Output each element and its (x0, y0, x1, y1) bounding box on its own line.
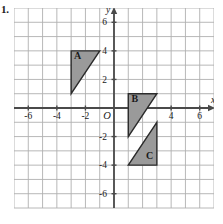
problem-number: 1. (1, 3, 9, 15)
x-axis-arrowhead (208, 105, 214, 111)
y-axis-label: y (105, 8, 111, 15)
x-tick-label: -2 (81, 111, 89, 121)
x-tick-label: -4 (53, 111, 61, 121)
triangle-label-b: B (131, 93, 138, 104)
y-tick-label: -6 (99, 189, 107, 199)
axes (14, 8, 214, 208)
worksheet-page: 1. -6-4-246642-2-4-6OxyABC (0, 0, 223, 224)
graph-svg: -6-4-246642-2-4-6OxyABC (14, 8, 214, 218)
y-tick-label: -2 (99, 132, 107, 142)
origin-label: O (103, 110, 111, 121)
coordinate-graph: -6-4-246642-2-4-6OxyABC (14, 8, 214, 218)
y-tick-label: 2 (102, 75, 107, 85)
y-tick-label: 4 (102, 46, 107, 56)
triangle-label-a: A (74, 50, 82, 61)
x-tick-label: -6 (24, 111, 32, 121)
y-axis-arrowhead (111, 8, 117, 14)
x-tick-label: 6 (197, 111, 202, 121)
triangle-label-c: C (146, 150, 153, 161)
y-tick-label: -4 (99, 160, 107, 170)
x-axis-label: x (210, 95, 214, 105)
x-tick-label: 4 (169, 111, 174, 121)
y-tick-label: 6 (102, 17, 107, 27)
